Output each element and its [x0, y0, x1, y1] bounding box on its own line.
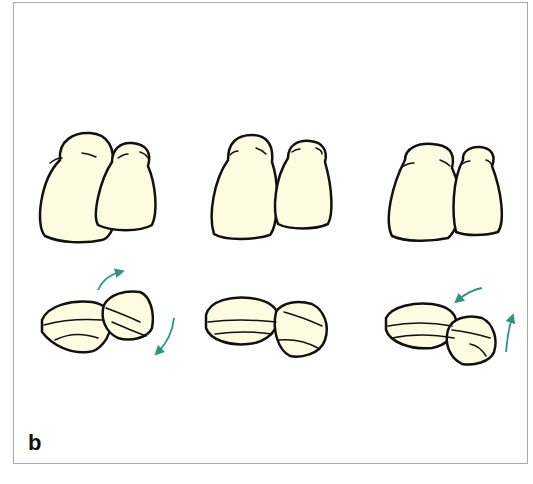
center-front-teeth [212, 135, 332, 239]
panel-label: b [28, 432, 41, 454]
left-front-teeth [40, 133, 155, 242]
right-occlusal-teeth [386, 304, 496, 365]
arrow-icon [98, 272, 120, 290]
center-occlusal-teeth [206, 298, 327, 357]
arrow-icon [458, 288, 482, 300]
arrow-icon [506, 318, 512, 352]
right-front-teeth [389, 144, 502, 241]
arrow-icon [158, 318, 174, 352]
dental-illustration [0, 0, 533, 484]
